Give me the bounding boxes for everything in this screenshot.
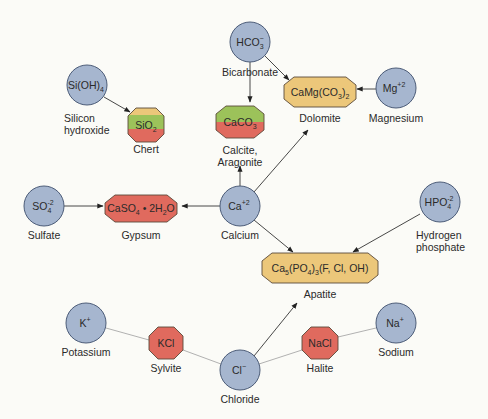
line-chloride-halite <box>259 350 302 364</box>
label-halite: Halite <box>307 362 334 374</box>
ion-silicon-hydroxide: Si(OH)4 Silicon hydroxide <box>64 65 110 136</box>
label-apatite: Apatite <box>304 288 337 300</box>
arrow-hydrogenphosphate-apatite <box>353 214 420 252</box>
ion-sulfate: SO4-2 Sulfate <box>24 186 64 241</box>
label-calcite: Calcite, <box>222 144 257 156</box>
label-silicon: Silicon <box>64 112 95 124</box>
svg-text:HCO3−: HCO3− <box>236 35 263 50</box>
ion-bicarbonate: HCO3− Bicarbonate <box>222 22 278 78</box>
mineral-dolomite: CaMg(CO3)2 Dolomite <box>284 77 356 124</box>
label-chloride: Chloride <box>220 393 259 405</box>
label-hydroxide: hydroxide <box>64 124 110 136</box>
ion-potassium: K+ Potassium <box>61 303 110 358</box>
ion-hydrogen-phosphate: HPO4-2 Hydrogen phosphate <box>416 182 465 253</box>
label-sylvite: Sylvite <box>151 362 182 374</box>
label-hydrogen: Hydrogen <box>416 229 462 241</box>
mineral-gypsum: CaSO4 • 2H2O Gypsum <box>105 195 177 241</box>
label-dolomite: Dolomite <box>299 112 341 124</box>
label-chert: Chert <box>133 143 159 155</box>
label-aragonite: Aragonite <box>218 156 263 168</box>
label-sulfate: Sulfate <box>28 229 61 241</box>
label-calcium: Calcium <box>221 229 259 241</box>
label-phosphate: phosphate <box>416 241 465 253</box>
label-magnesium: Magnesium <box>369 112 424 124</box>
svg-text:NaCl: NaCl <box>308 337 331 349</box>
ion-sodium: Na+ Sodium <box>376 303 416 358</box>
line-potassium-sylvite <box>106 328 149 340</box>
label-sodium: Sodium <box>378 346 414 358</box>
label-bicarbonate: Bicarbonate <box>222 66 278 78</box>
mineral-diagram: HCO3− Bicarbonate Si(OH)4 Silicon hydrox… <box>0 0 488 419</box>
mineral-chert: SiO2 Chert <box>126 106 166 155</box>
svg-text:KCl: KCl <box>158 337 175 349</box>
ion-calcium: Ca+2 Calcium <box>220 186 260 241</box>
ion-magnesium: Mg+2 Magnesium <box>369 68 424 124</box>
svg-text:HPO4-2: HPO4-2 <box>425 195 454 210</box>
mineral-apatite: Ca5(PO4)3(F, Cl, OH) Apatite <box>262 253 378 300</box>
mineral-halite: NaCl Halite <box>302 327 338 374</box>
label-gypsum: Gypsum <box>121 229 160 241</box>
line-sylvite-chloride <box>183 350 221 364</box>
svg-text:Si(OH)4: Si(OH)4 <box>68 79 104 93</box>
arrow-siliconhydroxide-chert <box>104 97 130 112</box>
label-potassium: Potassium <box>61 346 110 358</box>
arrow-chloride-apatite <box>254 303 297 356</box>
mineral-sylvite: KCl Sylvite <box>149 327 183 374</box>
svg-text:SO4-2: SO4-2 <box>32 199 53 214</box>
arrow-calcium-apatite <box>254 220 293 252</box>
ion-chloride: Cl− Chloride <box>220 350 260 405</box>
svg-text:CaCO3: CaCO3 <box>223 116 256 130</box>
mineral-calcite: CaCO3 Calcite, Aragonite <box>214 104 266 168</box>
line-halite-sodium <box>338 328 376 337</box>
